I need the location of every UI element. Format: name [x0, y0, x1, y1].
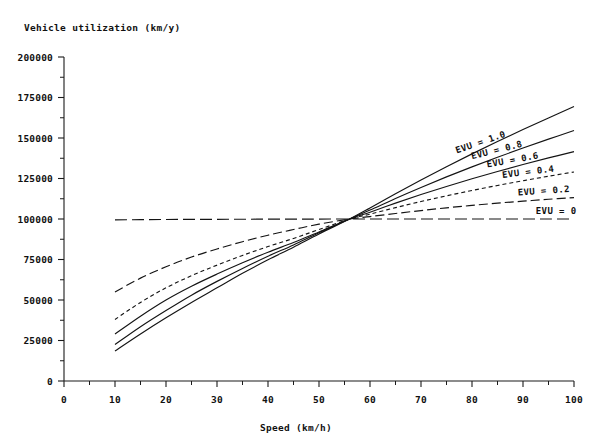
y-tick-label: 125000 — [17, 173, 53, 184]
x-axis-tick-labels: 0102030405060708090100 — [61, 394, 583, 405]
chart-figure: Vehicle utilization (km/y) 0250005000075… — [0, 0, 599, 448]
x-tick-label: 100 — [565, 394, 583, 405]
x-tick-label: 10 — [109, 394, 121, 405]
y-tick-label: 175000 — [17, 92, 53, 103]
y-tick-label: 25000 — [23, 335, 53, 346]
series-label-evu-0-2: EVU = 0.2 — [517, 184, 570, 198]
vehicle-utilization-line-chart: Vehicle utilization (km/y) 0250005000075… — [0, 0, 599, 448]
series-label-evu-0-4: EVU = 0.4 — [502, 164, 555, 180]
x-tick-label: 90 — [517, 394, 529, 405]
y-axis-title: Vehicle utilization (km/y) — [24, 22, 181, 33]
y-tick-label: 200000 — [17, 52, 53, 63]
x-tick-label: 80 — [466, 394, 478, 405]
x-axis-title: Speed (km/h) — [260, 422, 332, 433]
y-tick-label: 100000 — [17, 214, 53, 225]
y-axis-ticks — [58, 57, 64, 381]
y-axis-tick-labels: 0250005000075000100000125000150000175000… — [17, 52, 53, 387]
y-tick-label: 150000 — [17, 133, 53, 144]
series-curve — [115, 172, 574, 319]
x-tick-label: 60 — [364, 394, 376, 405]
series-curve — [115, 198, 574, 292]
x-tick-label: 50 — [313, 394, 325, 405]
series-label-group: EVU = 0EVU = 0.2EVU = 0.4EVU = 0.6EVU = … — [454, 129, 576, 216]
y-tick-label: 0 — [47, 376, 53, 387]
x-tick-label: 70 — [415, 394, 427, 405]
x-tick-label: 30 — [211, 394, 223, 405]
series-label-evu-0: EVU = 0 — [536, 206, 577, 216]
x-tick-label: 0 — [61, 394, 67, 405]
y-tick-label: 75000 — [23, 254, 53, 265]
x-axis-ticks — [64, 381, 574, 387]
x-tick-label: 20 — [160, 394, 172, 405]
y-tick-label: 50000 — [23, 295, 53, 306]
x-tick-label: 40 — [262, 394, 274, 405]
